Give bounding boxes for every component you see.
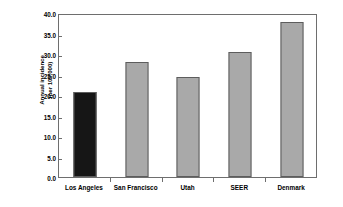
x-axis-tick-label: SEER [231,184,248,191]
x-axis-tick-label: Los Angeles [65,184,103,191]
y-axis-tick-mark [59,159,62,160]
y-axis-tick-label: 40.0 [30,11,56,18]
y-axis-tick-label: 0.0 [30,175,56,182]
y-axis-tick-mark [59,118,62,119]
x-axis-tick-mark [265,178,266,182]
y-axis-tick-label: 15.0 [30,113,56,120]
y-axis-tick-label: 25.0 [30,72,56,79]
x-axis-tick-labels: Los AngelesSan FranciscoUtahSEERDenmark [58,184,317,200]
y-axis-tick-labels: 0.05.010.015.020.025.030.035.040.0 [30,14,56,178]
y-axis-tick-label: 5.0 [30,154,56,161]
bar-slot [59,15,111,177]
x-axis-tick-label: Denmark [277,184,304,191]
x-axis-tick-mark [110,178,111,182]
bar-slot [111,15,163,177]
bar-chart: Annual incidence (per 100,000) 0.05.010.… [0,0,343,207]
y-axis-tick-label: 20.0 [30,93,56,100]
x-axis-tick-mark [213,178,214,182]
x-axis-tick-marks [58,178,317,182]
x-axis-tick-label: Utah [180,184,194,191]
plot-area [58,14,317,178]
bar-slot [163,15,215,177]
bar[interactable] [281,22,304,177]
bar[interactable] [229,52,252,177]
bar[interactable] [73,92,96,177]
bar-slot [214,15,266,177]
y-axis-tick-mark [59,36,62,37]
bar[interactable] [125,62,148,177]
bar[interactable] [177,77,200,177]
y-axis-tick-label: 30.0 [30,52,56,59]
y-axis-tick-mark [59,138,62,139]
y-axis-tick-mark [59,97,62,98]
x-axis-tick-mark [162,178,163,182]
bars-group [59,15,316,177]
y-axis-tick-mark [59,56,62,57]
bar-slot [266,15,318,177]
x-axis-tick-label: San Francisco [114,184,158,191]
y-axis-tick-label: 10.0 [30,134,56,141]
y-axis-tick-label: 35.0 [30,31,56,38]
y-axis-tick-mark [59,77,62,78]
